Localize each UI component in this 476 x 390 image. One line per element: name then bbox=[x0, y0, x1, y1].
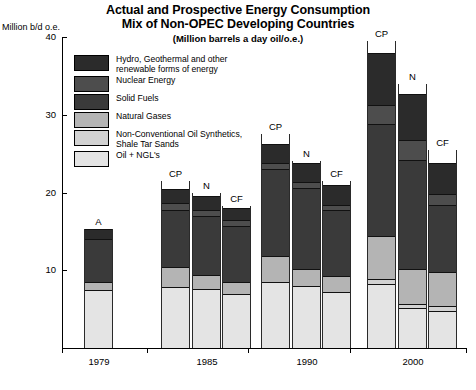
legend-label-line: renewable forms of energy bbox=[116, 65, 227, 75]
legend-label-line: Natural Gases bbox=[116, 112, 171, 122]
chart-title-block: Actual and Prospective Energy Consumptio… bbox=[0, 3, 476, 45]
segment-hydro_renewables bbox=[399, 94, 426, 141]
y-tick-30 bbox=[62, 115, 67, 116]
segment-natural_gases bbox=[293, 269, 320, 286]
legend-swatch-5 bbox=[74, 151, 109, 167]
chart-legend: Hydro, Geothermal and otherrenewable for… bbox=[74, 55, 289, 169]
bar-label-1985-N: N bbox=[187, 180, 227, 191]
segment-oil_ngl bbox=[193, 289, 220, 348]
legend-label-1: Nuclear Energy bbox=[116, 76, 175, 86]
segment-oil_ngl bbox=[223, 294, 250, 348]
segment-non_conventional bbox=[399, 304, 426, 309]
y-tick-label-10: 10 bbox=[26, 265, 56, 275]
segment-nuclear bbox=[293, 182, 320, 188]
segment-hydro_renewables bbox=[262, 144, 289, 163]
segment-hydro_renewables bbox=[368, 53, 395, 105]
legend-label-line: Solid Fuels bbox=[116, 94, 159, 104]
segment-nuclear bbox=[368, 105, 395, 124]
chart-container: Actual and Prospective Energy Consumptio… bbox=[0, 0, 476, 390]
legend-item-2: Solid Fuels bbox=[74, 94, 289, 110]
segment-solid_fuels bbox=[399, 160, 426, 270]
segment-oil_ngl bbox=[293, 286, 320, 348]
segment-oil_ngl bbox=[323, 292, 350, 348]
bar-1990-CP[interactable] bbox=[261, 134, 290, 348]
bar-label-1985-CF: CF bbox=[217, 193, 257, 204]
legend-swatch-4 bbox=[74, 130, 109, 146]
bar-1990-CF[interactable] bbox=[322, 181, 351, 348]
bar-1979-A[interactable] bbox=[84, 229, 113, 348]
y-tick-20 bbox=[62, 193, 67, 194]
bar-label-1979-A: A bbox=[79, 216, 119, 227]
chart-title-line-1: Actual and Prospective Energy Consumptio… bbox=[0, 3, 476, 17]
segment-oil_ngl bbox=[429, 311, 456, 348]
segment-solid_fuels bbox=[429, 205, 456, 272]
segment-natural_gases bbox=[429, 272, 456, 306]
x-tick-3 bbox=[350, 348, 351, 353]
y-tick-40 bbox=[62, 37, 67, 38]
bar-1985-N[interactable] bbox=[192, 193, 221, 349]
x-tick-0 bbox=[62, 348, 63, 353]
legend-label-4: Non-Conventional Oil Synthetics,Shale Ta… bbox=[116, 130, 242, 149]
bar-label-1990-CF: CF bbox=[317, 168, 357, 179]
segment-hydro_renewables bbox=[223, 208, 250, 220]
bar-2000-CP[interactable] bbox=[367, 41, 396, 348]
x-tick-1 bbox=[147, 348, 148, 353]
legend-swatch-0 bbox=[74, 55, 109, 71]
segment-non_conventional bbox=[368, 279, 395, 284]
legend-item-5: Oil + NGL's bbox=[74, 151, 289, 167]
segment-nuclear bbox=[323, 205, 350, 210]
x-axis-label-1985: 1985 bbox=[177, 356, 237, 367]
segment-hydro_renewables bbox=[429, 163, 456, 194]
segment-solid_fuels bbox=[85, 239, 112, 282]
segment-natural_gases bbox=[223, 282, 250, 294]
legend-label-line: Nuclear Energy bbox=[116, 76, 175, 86]
legend-swatch-3 bbox=[74, 112, 109, 128]
bar-1990-N[interactable] bbox=[292, 161, 321, 348]
segment-nuclear bbox=[193, 210, 220, 216]
x-axis-line bbox=[62, 348, 466, 349]
segment-oil_ngl bbox=[162, 287, 189, 348]
legend-label-2: Solid Fuels bbox=[116, 94, 159, 104]
segment-non_conventional bbox=[429, 306, 456, 311]
bar-label-1990-N: N bbox=[287, 148, 327, 159]
legend-item-1: Nuclear Energy bbox=[74, 76, 289, 92]
legend-label-line: Oil + NGL's bbox=[116, 151, 160, 161]
bar-1985-CF[interactable] bbox=[222, 206, 251, 348]
segment-oil_ngl bbox=[85, 290, 112, 348]
segment-nuclear bbox=[162, 203, 189, 209]
segment-natural_gases bbox=[262, 256, 289, 282]
legend-label-3: Natural Gases bbox=[116, 112, 171, 122]
segment-nuclear bbox=[223, 220, 250, 225]
segment-natural_gases bbox=[368, 236, 395, 279]
bar-label-1985-CP: CP bbox=[156, 168, 196, 179]
segment-hydro_renewables bbox=[162, 189, 189, 203]
x-tick-2 bbox=[248, 348, 249, 353]
legend-label-0: Hydro, Geothermal and otherrenewable for… bbox=[116, 55, 227, 74]
bar-2000-CF[interactable] bbox=[428, 150, 457, 348]
x-axis-label-2000: 2000 bbox=[383, 356, 443, 367]
segment-solid_fuels bbox=[223, 226, 250, 282]
segment-natural_gases bbox=[85, 282, 112, 290]
x-axis-label-1979: 1979 bbox=[69, 356, 129, 367]
legend-swatch-1 bbox=[74, 76, 109, 92]
bar-2000-N[interactable] bbox=[398, 84, 427, 348]
segment-oil_ngl bbox=[262, 282, 289, 348]
segment-solid_fuels bbox=[262, 169, 289, 256]
legend-swatch-2 bbox=[74, 94, 109, 110]
segment-natural_gases bbox=[399, 269, 426, 303]
segment-natural_gases bbox=[323, 276, 350, 292]
segment-solid_fuels bbox=[193, 216, 220, 275]
bar-1985-CP[interactable] bbox=[161, 181, 190, 348]
segment-hydro_renewables bbox=[85, 229, 112, 239]
segment-nuclear bbox=[429, 194, 456, 205]
segment-solid_fuels bbox=[368, 124, 395, 236]
segment-nuclear bbox=[262, 163, 289, 169]
legend-item-0: Hydro, Geothermal and otherrenewable for… bbox=[74, 55, 289, 74]
chart-subtitle: (Million barrels a day oil/o.e.) bbox=[0, 32, 476, 45]
bar-label-2000-CP: CP bbox=[362, 28, 402, 39]
chart-title-line-2: Mix of Non-OPEC Developing Countries bbox=[0, 17, 476, 31]
segment-solid_fuels bbox=[162, 210, 189, 268]
segment-solid_fuels bbox=[293, 188, 320, 269]
legend-label-5: Oil + NGL's bbox=[116, 151, 160, 161]
segment-solid_fuels bbox=[323, 210, 350, 275]
